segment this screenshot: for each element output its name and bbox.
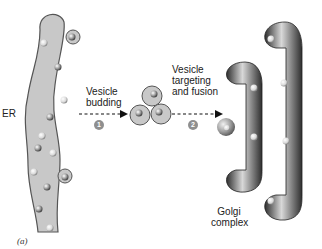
figure-label: (a)	[17, 236, 28, 246]
golgi-label-line2: complex	[211, 217, 247, 228]
golgi-label-line1: Golgi	[211, 206, 247, 217]
step-1-label-line2: budding	[86, 97, 122, 108]
er-membrane	[25, 14, 80, 232]
golgi-label: Golgi complex	[211, 206, 247, 228]
step-2-badge: 2	[188, 120, 198, 130]
arrow-1-budding	[79, 110, 128, 118]
step-2-label-line2: targeting	[172, 75, 218, 86]
step-2-label-line3: and fusion	[172, 86, 218, 97]
step-2-label-line1: Vesicle	[172, 64, 218, 75]
diagram-canvas	[0, 0, 322, 249]
step-1-badge: 1	[94, 120, 104, 130]
transport-vesicles	[130, 86, 171, 125]
golgi-cisterna-2	[265, 22, 302, 220]
arrow-2-targeting	[172, 110, 223, 118]
step-1-label: Vesicle budding	[86, 86, 122, 108]
step-2-label: Vesicle targeting and fusion	[172, 64, 218, 97]
er-label: ER	[2, 108, 16, 119]
step-1-label-line1: Vesicle	[86, 86, 122, 97]
